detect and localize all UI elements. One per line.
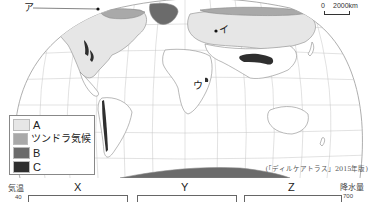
legend-item-tundra: ツンドラ気候 (13, 132, 91, 146)
legend-swatch-a (13, 119, 30, 131)
scale-line (324, 11, 350, 15)
legend-label-a: A (33, 119, 40, 131)
temperature-axis-top: 40 (15, 194, 22, 200)
north-america (55, 10, 147, 78)
australia (268, 107, 309, 134)
legend-swatch-b (13, 147, 30, 159)
scale-distance: 2000km (333, 2, 358, 9)
source-citation: (「ディルケアトラス」2015年版) (265, 163, 368, 173)
legend-label-b: B (33, 147, 40, 159)
graph-z-title: Z (288, 181, 295, 193)
graph-y-title: Y (181, 181, 188, 193)
legend-item-c: C (13, 160, 91, 174)
marker-a-label: ア (24, 3, 34, 13)
marker-i-label: イ (219, 25, 229, 35)
marker-a-leader (33, 8, 98, 9)
graph-x-title: X (74, 181, 81, 193)
temperature-axis-label: 気温 (8, 182, 24, 193)
marker-a-dot (96, 7, 99, 10)
precipitation-axis-top: 700 (343, 193, 353, 199)
marker-i-dot (214, 29, 217, 32)
legend: A ツンドラ気候 B C (9, 115, 95, 175)
graph-y-frame (137, 195, 237, 202)
marker-u-label: ウ (193, 81, 203, 91)
legend-item-a: A (13, 118, 91, 132)
legend-label-c: C (33, 161, 41, 173)
legend-item-b: B (13, 146, 91, 160)
scale-zero: 0 (321, 2, 325, 9)
legend-label-tundra: ツンドラ気候 (31, 133, 91, 145)
legend-swatch-c (13, 161, 30, 173)
climate-graphs: 気温 40 X Y Z 降水量 700 (0, 180, 369, 202)
precipitation-axis-label: 降水量 (340, 181, 364, 192)
landmasses (55, 3, 325, 178)
graph-x-frame (28, 195, 128, 202)
graph-z-frame (244, 195, 342, 202)
africa (163, 49, 212, 114)
scale-bar: 0 2000km (321, 2, 365, 16)
legend-swatch-tundra (13, 133, 28, 145)
world-map: ア イ ウ 0 2000km A ツンドラ気候 B C (「ディルケアトラス」2… (0, 0, 369, 178)
